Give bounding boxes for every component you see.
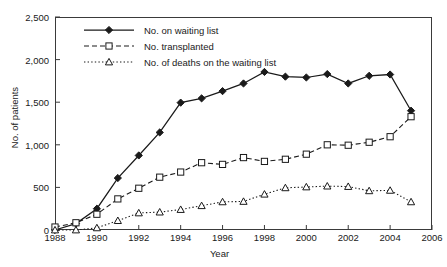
data-point [94,211,100,217]
legend-item-2: No. transplanted [82,38,276,54]
data-point [240,80,247,87]
data-point [282,73,289,80]
data-point [387,134,393,140]
y-axis-title: No. of patients [9,58,20,178]
legend-key-icon [82,39,136,53]
legend-item-label: No. of deaths on the waiting list [136,57,276,68]
x-tick-label: 1988 [33,232,77,243]
legend-item-label: No. on waiting list [136,25,218,36]
data-point [114,217,121,223]
data-point [198,95,205,102]
data-series-layer [51,68,414,233]
x-tick-label: 1994 [159,232,203,243]
data-point [135,209,142,215]
chart-legend: No. on waiting listNo. transplantedNo. o… [82,22,276,70]
series-3 [51,183,414,233]
x-axis-title: Year [0,248,439,259]
x-tick-label: 1998 [242,232,286,243]
data-point [177,206,184,212]
data-point [115,196,121,202]
data-point [261,158,267,164]
legend-item-1: No. on waiting list [82,22,276,38]
data-point [387,71,394,78]
data-point [199,160,205,166]
data-point [178,169,184,175]
data-point [366,72,373,79]
data-point [324,142,330,148]
data-point [407,198,414,204]
legend-item-3: No. of deaths on the waiting list [82,54,276,70]
data-point [303,74,310,81]
x-tick-label: 2004 [368,232,412,243]
data-point [324,183,331,189]
data-point [282,156,288,162]
data-point [219,161,225,167]
x-tick-label: 2006 [410,232,447,243]
data-point [303,151,309,157]
x-tick-label: 2000 [284,232,328,243]
legend-key-icon [82,55,136,69]
data-point [136,185,142,191]
data-point [157,174,163,180]
legend-key-icon [82,23,136,37]
data-point [408,114,414,120]
data-point [345,142,351,148]
legend-item-label: No. transplanted [136,41,214,52]
data-point [219,88,226,95]
x-tick-label: 1992 [117,232,161,243]
data-point [366,139,372,145]
y-tick-label: 2,500 [9,12,49,23]
x-tick-label: 1990 [75,232,119,243]
series-line [55,117,411,227]
data-point [73,220,79,226]
series-2 [52,114,414,231]
data-point [240,154,246,160]
series-1 [51,68,414,233]
data-point [324,70,331,77]
x-tick-label: 1996 [201,232,245,243]
y-tick-label: 500 [9,182,49,193]
x-tick-label: 2002 [326,232,370,243]
data-point [345,80,352,87]
